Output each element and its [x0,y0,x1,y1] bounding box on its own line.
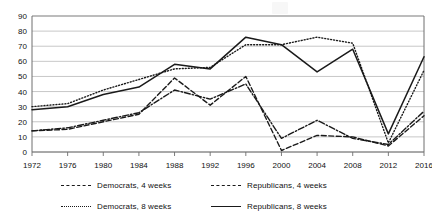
y-tick-label: 70 [18,42,27,51]
series-line-1 [32,76,424,150]
plot-svg: 0102030405060708090197219761980198419881… [0,0,432,175]
line-chart: 0102030405060708090197219761980198419881… [0,0,432,219]
legend-label: Democrats, 4 weeks [97,181,171,190]
legend-item-republicans-4-weeks[interactable]: Republicans, 4 weeks [211,181,371,191]
legend-row-2: Democrats, 8 weeks Republicans, 8 weeks [0,196,432,217]
y-tick-label: 10 [18,133,27,142]
chart-legend: Democrats, 4 weeks Republicans, 4 weeks … [0,175,432,219]
y-tick-label: 30 [18,103,27,112]
x-tick-label: 1976 [59,161,77,170]
x-tick-label: 2000 [273,161,291,170]
legend-key-dotted-icon [61,202,91,212]
x-tick-label: 1980 [94,161,112,170]
plot-area: 0102030405060708090197219761980198419881… [0,0,432,175]
y-tick-label: 20 [18,118,27,127]
x-tick-label: 2012 [379,161,397,170]
y-tick-label: 40 [18,88,27,97]
x-tick-label: 1972 [23,161,41,170]
legend-label: Democrats, 8 weeks [97,202,171,211]
x-tick-label: 2008 [344,161,362,170]
x-tick-label: 2016 [415,161,432,170]
legend-item-democrats-4-weeks[interactable]: Democrats, 4 weeks [61,181,211,191]
y-tick-label: 90 [18,12,27,21]
series-line-3 [32,37,424,134]
legend-label: Republicans, 8 weeks [247,202,327,211]
x-tick-label: 2004 [308,161,326,170]
x-tick-label: 1984 [130,161,148,170]
y-tick-label: 0 [23,148,28,157]
y-tick-label: 80 [18,27,27,36]
legend-item-republicans-8-weeks[interactable]: Republicans, 8 weeks [211,202,371,212]
legend-label: Republicans, 4 weeks [247,181,327,190]
y-tick-label: 60 [18,57,27,66]
x-tick-label: 1992 [201,161,219,170]
x-tick-label: 1996 [237,161,255,170]
legend-item-democrats-8-weeks[interactable]: Democrats, 8 weeks [61,202,211,212]
legend-key-dash-dot-icon [61,181,91,191]
y-tick-label: 50 [18,72,27,81]
x-tick-label: 1988 [166,161,184,170]
series-line-0 [32,84,424,144]
legend-row-1: Democrats, 4 weeks Republicans, 4 weeks [0,175,432,196]
legend-key-dashed-icon [211,181,241,191]
legend-key-solid-icon [211,202,241,212]
